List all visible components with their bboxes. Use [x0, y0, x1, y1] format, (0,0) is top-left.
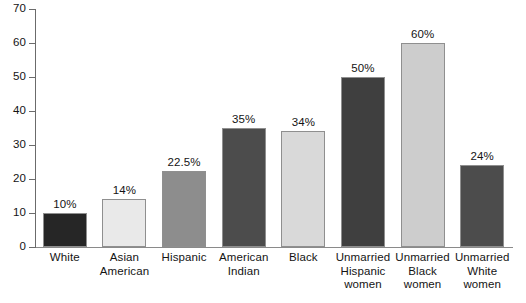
y-axis-tick-label: 50 — [0, 71, 26, 83]
bar-value-label: 50% — [329, 62, 397, 74]
x-axis-category-label-line: Asian — [92, 251, 158, 265]
bar[interactable] — [43, 213, 87, 247]
bar-value-label: 24% — [448, 150, 516, 162]
x-axis-line — [35, 247, 513, 248]
bar-slot: 24% — [460, 9, 504, 247]
x-axis-category-label: UnmarriedHispanicwomen — [330, 251, 396, 292]
x-axis-category-label: AsianAmerican — [92, 251, 158, 278]
x-axis-category-label-line: American — [211, 251, 277, 265]
bar[interactable] — [102, 199, 146, 247]
bar-slot: 60% — [401, 9, 445, 247]
bar[interactable] — [460, 165, 504, 247]
bar-value-label: 35% — [210, 113, 278, 125]
x-axis-category-labels: WhiteAsianAmericanHispanicAmericanIndian… — [35, 251, 512, 303]
x-axis-category-label-line: women — [330, 278, 396, 292]
bar-value-label: 60% — [389, 28, 457, 40]
y-axis-tick — [29, 247, 36, 248]
x-axis-category-label: Black — [271, 251, 337, 265]
x-axis-category-label-line: women — [390, 278, 456, 292]
bar-slot: 10% — [43, 9, 87, 247]
bar-slot: 22.5% — [162, 9, 206, 247]
bar-value-label: 22.5% — [150, 156, 218, 168]
x-axis-category-label: Hispanic — [151, 251, 217, 265]
x-axis-category-label-line: Unmarried — [390, 251, 456, 265]
bar[interactable] — [401, 43, 445, 247]
x-axis-category-label-line: White — [449, 265, 515, 279]
bar-slot: 14% — [102, 9, 146, 247]
bar[interactable] — [341, 77, 385, 247]
x-axis-category-label: UnmarriedBlackwomen — [390, 251, 456, 292]
y-axis-tick-label: 0 — [0, 241, 26, 253]
bar-value-label: 10% — [31, 198, 99, 210]
x-axis-category-label: White — [32, 251, 98, 265]
y-axis-tick-label: 20 — [0, 173, 26, 185]
bar-chart: 010203040506070 10%14%22.5%35%34%50%60%2… — [0, 0, 526, 303]
x-axis-category-label-line: Hispanic — [151, 251, 217, 265]
x-axis-category-label: UnmarriedWhitewomen — [449, 251, 515, 292]
bar-slot: 50% — [341, 9, 385, 247]
bar-slot: 35% — [222, 9, 266, 247]
x-axis-category-label-line: Black — [390, 265, 456, 279]
x-axis-category-label-line: women — [449, 278, 515, 292]
bar[interactable] — [222, 128, 266, 247]
x-axis-category-label-line: American — [92, 265, 158, 279]
x-axis-category-label-line: White — [32, 251, 98, 265]
x-axis-category-label-line: Unmarried — [330, 251, 396, 265]
x-axis-category-label-line: Black — [271, 251, 337, 265]
x-axis-category-label-line: Hispanic — [330, 265, 396, 279]
bar[interactable] — [162, 171, 206, 248]
x-axis-category-label: AmericanIndian — [211, 251, 277, 278]
y-axis-tick-label: 60 — [0, 37, 26, 49]
x-axis-category-label-line: Indian — [211, 265, 277, 279]
bar[interactable] — [281, 131, 325, 247]
bar-value-label: 34% — [269, 116, 337, 128]
bar-slot: 34% — [281, 9, 325, 247]
y-axis-tick-label: 10 — [0, 207, 26, 219]
y-axis-tick-label: 30 — [0, 139, 26, 151]
bar-value-label: 14% — [90, 184, 158, 196]
y-axis-tick-label: 70 — [0, 3, 26, 15]
bar-series: 10%14%22.5%35%34%50%60%24% — [35, 9, 512, 247]
y-axis-tick-label: 40 — [0, 105, 26, 117]
x-axis-category-label-line: Unmarried — [449, 251, 515, 265]
